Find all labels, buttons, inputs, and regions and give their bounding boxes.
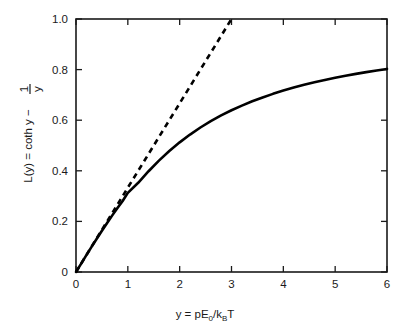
y-axis-title-fraction: 1 y	[18, 84, 43, 94]
y-tick-label: 0.8	[52, 64, 68, 76]
x-tick-label: 1	[125, 278, 131, 290]
series-linear-approximation	[76, 19, 232, 272]
plot-frame	[76, 19, 387, 272]
y-tick-label: 0	[62, 266, 68, 278]
x-tick-label: 4	[280, 278, 287, 290]
y-axis-tick-labels: 00.20.40.60.81.0	[52, 13, 69, 278]
y-axis-title: L(y) = coth y − 1 y	[18, 84, 43, 183]
svg-text:L(y) = coth y −: L(y) = coth y −	[22, 109, 34, 183]
series-langevin-curve	[76, 69, 387, 272]
data-series-group	[76, 19, 387, 272]
x-tick-label: 6	[384, 278, 390, 290]
x-tick-label: 2	[176, 278, 182, 290]
x-tick-label: 3	[228, 278, 234, 290]
y-tick-label: 1.0	[52, 13, 68, 25]
x-tick-label: 5	[332, 278, 338, 290]
x-axis-title: y = pE0/kBT	[176, 308, 235, 323]
x-axis-title-lead: y = pE	[176, 308, 209, 320]
fraction-denominator: y	[31, 86, 43, 92]
x-axis-title-tail: T	[227, 308, 234, 320]
x-axis-tick-labels: 0123456	[73, 278, 390, 290]
chart-canvas: 0123456 00.20.40.60.81.0 y = pE0/kBT L(y…	[0, 0, 411, 331]
x-tick-label: 0	[73, 278, 79, 290]
y-axis-title-lead: L(y) = coth y −	[22, 109, 34, 183]
y-tick-label: 0.4	[52, 165, 69, 177]
svg-text:y = pE0/kBT: y = pE0/kBT	[176, 308, 235, 323]
y-tick-label: 0.2	[52, 215, 68, 227]
fraction-numerator: 1	[18, 86, 30, 92]
axis-ticks	[76, 19, 387, 272]
langevin-function-chart: 0123456 00.20.40.60.81.0 y = pE0/kBT L(y…	[0, 0, 411, 331]
x-axis-title-mid: /k	[213, 308, 222, 320]
y-tick-label: 0.6	[52, 114, 68, 126]
